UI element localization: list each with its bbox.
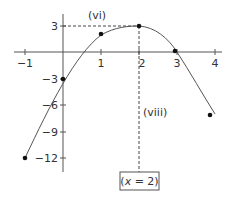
point-0-m3 xyxy=(61,77,66,82)
x-tick-label: 2 xyxy=(139,57,146,70)
x-tick-label: −1 xyxy=(17,57,33,70)
point-m1-m12 xyxy=(23,156,28,161)
y-tick-label: −9 xyxy=(42,126,58,139)
x-tick-label: 3 xyxy=(174,57,181,70)
x-tick-label: 1 xyxy=(98,57,105,70)
point-3-0 xyxy=(173,49,178,54)
annotation-viii: (viii) xyxy=(143,106,167,119)
chart: −1 1 2 3 4 3 −3 −6 −9 −12 (vi) (viii) (x… xyxy=(0,0,226,201)
point-2-3 xyxy=(137,24,142,29)
y-tick-label: 3 xyxy=(51,20,58,33)
y-tick-label: −3 xyxy=(42,73,58,86)
y-tick-label: −6 xyxy=(42,99,58,112)
x-tick-label: 4 xyxy=(212,57,219,70)
point-1-2 xyxy=(99,32,104,37)
symmetry-label: (x = 2) xyxy=(120,175,158,188)
y-tick-label: −12 xyxy=(35,152,58,165)
annotation-vi: (vi) xyxy=(88,9,106,22)
data-points xyxy=(23,24,213,161)
point-4-m7 xyxy=(208,113,213,118)
